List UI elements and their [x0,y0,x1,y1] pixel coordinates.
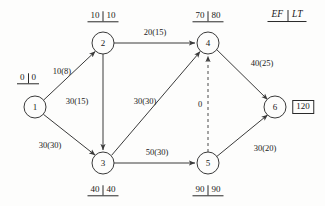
lt-value-node-3: 40 [104,185,119,195]
node-circle-4[interactable] [197,32,219,54]
time-pair-node-1: 0 0 [17,73,39,84]
ef-value-node-2: 10 [88,11,104,21]
edge-label-1-3: 30(30) [39,141,62,150]
time-pair-node-4: 70 80 [193,11,224,22]
ef-value-node-3: 40 [88,185,104,195]
ef-value-node-1: 0 [17,73,29,83]
project-duration-box: 120 [292,100,314,114]
ef-value-node-4: 70 [193,11,209,21]
lt-value-node-4: 80 [209,11,224,21]
time-pair-node-2: 10 10 [88,11,119,22]
legend-lt-label: LT [288,10,306,21]
edge-label-4-6: 40(25) [251,59,274,68]
lt-value-node-1: 0 [29,73,40,83]
edge-1-2 [44,51,96,100]
node-circle-3[interactable] [92,152,114,174]
edge-label-5-4-dummy: 0 [198,100,202,109]
network-diagram-canvas: 1 2 3 4 5 6 0 0 10 10 40 40 70 80 90 90 … [0,0,325,206]
lt-value-node-2: 10 [104,11,119,21]
legend-ef-label: EF [268,10,289,21]
node-circle-5[interactable] [197,152,219,174]
edge-label-3-5: 50(30) [146,148,169,157]
node-circle-2[interactable] [92,32,114,54]
edge-label-2-4: 20(15) [144,28,167,37]
edge-label-5-6: 30(20) [254,144,277,153]
edge-label-1-2: 10(8) [53,67,71,76]
ef-value-node-5: 90 [193,185,209,195]
time-pair-node-5: 90 90 [193,185,224,196]
edge-label-3-4: 30(30) [134,97,157,106]
time-pair-node-3: 40 40 [88,185,119,196]
legend-ef-lt: EF LT [268,10,307,22]
lt-value-node-5: 90 [209,185,224,195]
edge-label-2-3: 30(15) [66,97,89,106]
node-circle-1[interactable] [24,96,46,118]
node-circle-6[interactable] [264,96,286,118]
